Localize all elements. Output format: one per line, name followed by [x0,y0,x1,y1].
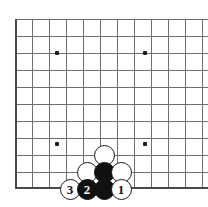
board-stones: 321 [0,0,208,207]
stone-move-number: 1 [118,182,125,195]
go-board-diagram: 321 [0,0,208,207]
stone-move-number: 3 [67,182,74,195]
stone-white-move-1: 1 [111,179,132,200]
stone-move-number: 2 [84,182,91,195]
